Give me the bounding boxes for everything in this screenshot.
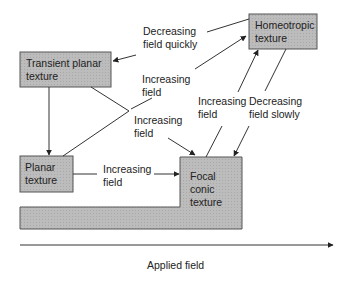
homeotropic-line-2: texture [255, 32, 315, 45]
arrow-homeo-to-focal-a [265, 49, 286, 91]
label-planar-to-focal: Increasing field [103, 163, 151, 189]
label-line: Decreasing [249, 95, 302, 108]
label-line: Decreasing [143, 25, 197, 38]
planar-line-1: Planar [25, 161, 57, 174]
label-homeo-to-focal: Decreasing field slowly [249, 95, 302, 121]
label-transient-to-focal: Increasing field [134, 114, 182, 140]
label-line: field quickly [143, 38, 197, 51]
label-line: field [142, 86, 190, 99]
line-junction-planar [63, 111, 129, 156]
label-homeo-to-transient: Decreasing field quickly [143, 25, 197, 51]
planar-label: Planar texture [25, 161, 57, 187]
axis-label: Applied field [147, 259, 204, 272]
label-line: Increasing [134, 114, 182, 127]
focal-conic-line-3: texture [190, 196, 222, 209]
arrow-transient-to-focal [168, 138, 195, 155]
label-line: field slowly [249, 108, 302, 121]
focal-conic-label: Focal conic texture [190, 170, 222, 209]
label-transient-to-homeo: Increasing field [142, 73, 190, 99]
label-line: Increasing [142, 73, 190, 86]
focal-conic-line-1: Focal [190, 170, 222, 183]
focal-conic-line-2: conic [190, 183, 222, 196]
arrow-homeo-to-transient [207, 19, 249, 32]
label-line: Increasing [103, 163, 151, 176]
arrow-homeo-to-focal-b [234, 126, 249, 156]
arrow-focal-to-homeo-a [206, 126, 222, 157]
arrow-homeo-to-transient-tail [113, 55, 136, 61]
arrow-transient-to-homeo-b [195, 36, 246, 69]
label-line: field [134, 127, 182, 140]
arrow-transient-to-homeo-a [131, 98, 152, 109]
label-line: field [103, 176, 151, 189]
transient-planar-line-1: Transient planar [26, 57, 101, 70]
label-line: Increasing [198, 95, 246, 108]
label-line: field [198, 108, 246, 121]
label-focal-to-homeo: Increasing field [198, 95, 246, 121]
homeotropic-line-1: Homeotropic [255, 19, 315, 32]
arrow-focal-to-homeo-b [238, 50, 258, 92]
transient-planar-label: Transient planar texture [26, 57, 101, 83]
line-transient-junction [91, 87, 129, 111]
homeotropic-label: Homeotropic texture [255, 19, 315, 45]
planar-line-2: texture [25, 174, 57, 187]
transient-planar-line-2: texture [26, 70, 101, 83]
